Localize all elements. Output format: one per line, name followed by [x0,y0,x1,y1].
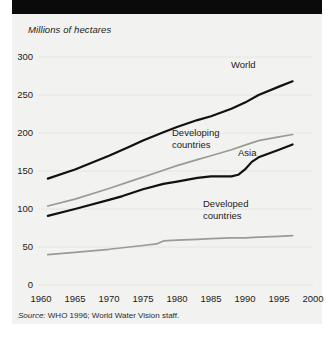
x-tick-1965: 1965 [58,293,92,304]
y-tick-250: 250 [7,89,33,100]
source-note: Source: WHO 1996; World Water Vision sta… [18,311,179,320]
x-tick-1980: 1980 [160,293,194,304]
y-tick-50: 50 [7,241,33,252]
y-tick-150: 150 [7,165,33,176]
y-tick-100: 100 [7,203,33,214]
series-line-developing-countries [48,135,293,206]
x-tick-1995: 1995 [262,293,296,304]
line-chart [0,0,333,337]
y-tick-300: 300 [7,51,33,62]
x-tick-1990: 1990 [228,293,262,304]
gridlines [38,57,313,285]
series-label-line: countries [203,210,248,222]
x-tick-1985: 1985 [194,293,228,304]
y-tick-0: 0 [7,279,33,290]
x-tick-2000: 2000 [296,293,330,304]
series-label-asia: Asia [238,147,256,159]
y-tick-200: 200 [7,127,33,138]
source-text: WHO 1996; World Water Vision staff. [46,311,180,320]
series-line-world [48,81,293,178]
series-label-world: World [231,59,256,71]
x-tick-1970: 1970 [92,293,126,304]
figure-container: Millions of hectares 050100150200250300 … [0,0,333,337]
series-label-developed-countries: Developedcountries [203,198,248,221]
x-tick-1975: 1975 [126,293,160,304]
x-tick-1960: 1960 [24,293,58,304]
series-paths [48,81,293,254]
series-label-line: Asia [238,147,256,159]
series-label-line: World [231,59,256,71]
series-label-line: Developed [203,198,248,210]
source-prefix: Source: [18,311,46,320]
series-line-developed-countries [48,236,293,255]
series-label-developing-countries: Developingcountries [172,127,220,150]
series-label-line: Developing [172,127,220,139]
series-label-line: countries [172,139,220,151]
